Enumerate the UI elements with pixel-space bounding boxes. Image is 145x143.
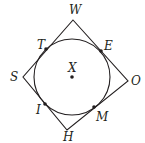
label-o: O [131, 74, 141, 88]
label-i: I [35, 103, 41, 117]
label-m: M [95, 110, 109, 124]
label-w: W [69, 3, 83, 17]
tangent-point-m [92, 105, 96, 109]
label-e: E [103, 39, 113, 53]
label-h: H [62, 130, 74, 143]
label-s: S [10, 70, 18, 84]
center-point-x [70, 75, 74, 79]
label-x: X [67, 61, 77, 75]
inscribed-circle-diagram: W O H S T E M I X [0, 0, 145, 143]
tangent-point-i [43, 102, 47, 106]
tangent-point-e [99, 49, 103, 53]
label-t: T [37, 38, 46, 52]
